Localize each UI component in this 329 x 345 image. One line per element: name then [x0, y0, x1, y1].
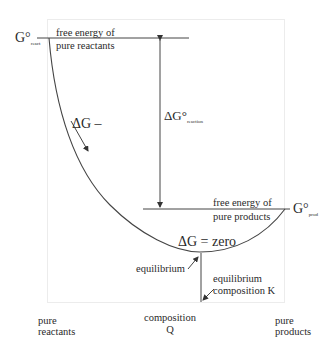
equilibrium-label: equilibrium: [136, 263, 185, 274]
delta-g-minus-label: ΔG –: [72, 116, 102, 131]
x-axis-middle-line1: composition: [140, 312, 200, 323]
x-axis-right-line1: pure: [275, 315, 294, 326]
g-react-subscript: react: [31, 41, 41, 46]
g-prod-subscript: prod: [309, 212, 318, 217]
equilibrium-composition-label-line1: equilibrium: [213, 273, 262, 284]
reactants-energy-label-line1: free energy of: [56, 27, 115, 38]
g-react-symbol: G°: [15, 30, 31, 45]
g-prod-symbol: G°: [293, 201, 309, 216]
equilibrium-pointer-arrow: [188, 257, 198, 269]
x-axis-left-line2: reactants: [38, 326, 75, 337]
x-axis-middle-line2: Q: [140, 324, 200, 335]
delta-g-reaction-symbol: ΔG°: [164, 108, 187, 123]
g-react-label: G°react: [15, 30, 40, 51]
x-axis-left-line1: pure: [38, 315, 57, 326]
equilibrium-composition-label-line2: composition K: [213, 285, 275, 296]
products-energy-label-line1: free energy of: [213, 197, 272, 208]
delta-g-reaction-label: ΔG°reaction: [164, 110, 203, 127]
delta-g-reaction-subscript: reaction: [187, 119, 203, 124]
x-axis-right-line2: products: [275, 326, 311, 337]
reactants-energy-label-line2: pure reactants: [56, 40, 115, 51]
products-energy-label-line2: pure products: [213, 211, 270, 222]
g-prod-label: G°prod: [293, 201, 318, 222]
delta-g-zero-label: ΔG = zero: [178, 234, 236, 249]
free-energy-diagram: [0, 0, 329, 345]
